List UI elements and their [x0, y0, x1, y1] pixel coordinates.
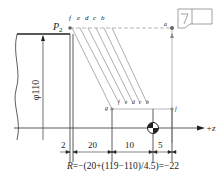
diameter-dimension: φ110 [30, 35, 45, 140]
dim-10: 10 [125, 140, 135, 150]
dim-2: 2 [61, 140, 66, 150]
svg-text:f: f [118, 99, 121, 105]
cutting-tool-icon [178, 9, 212, 28]
diameter-label: φ110 [30, 80, 41, 100]
bottom-point-labels: f e d c b [118, 99, 149, 105]
origin-symbol [148, 123, 159, 134]
dim-20: 20 [88, 140, 98, 150]
svg-text:c: c [139, 99, 142, 105]
svg-text:e: e [77, 14, 80, 22]
bottom-dimensions [60, 151, 176, 154]
axis-label: +z [206, 123, 216, 133]
svg-text:b: b [146, 99, 149, 105]
point-p2 [68, 26, 72, 30]
svg-text:d: d [85, 14, 89, 22]
toolpath-diagram: φ110 +z P2 f e d c b a [0, 0, 221, 182]
svg-text:e: e [125, 99, 128, 105]
svg-text:f: f [69, 14, 72, 22]
radius-formula: R=−(20+(119−110)/4.5)=−22 [67, 161, 179, 171]
point-g-label: g [105, 105, 108, 111]
point-right-label: f [175, 106, 178, 112]
top-point-labels: f e d c b [69, 14, 105, 22]
point-right [170, 107, 173, 110]
point-a [170, 26, 174, 30]
finish-profile [112, 109, 172, 162]
svg-text:c: c [93, 14, 97, 22]
point-a-label: a [164, 21, 167, 27]
p2-label: P2 [52, 21, 63, 34]
dim-5: 5 [158, 140, 163, 150]
svg-text:b: b [101, 14, 105, 22]
formula-rhs: =−(20+(119−110)/4.5)=−22 [73, 161, 179, 171]
svg-text:d: d [132, 99, 135, 105]
z-axis: +z [14, 123, 216, 133]
point-g [110, 107, 113, 110]
taper-passes [72, 28, 147, 109]
